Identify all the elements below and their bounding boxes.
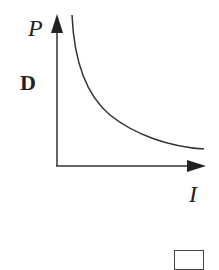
x-axis-label: I — [189, 182, 197, 206]
y-axis-label: P — [28, 16, 43, 40]
inverse-curve — [72, 15, 204, 149]
x-axis-arrowhead — [187, 160, 206, 172]
answer-box — [174, 250, 204, 270]
y-axis-arrowhead — [51, 14, 63, 33]
option-label: D — [20, 72, 36, 94]
